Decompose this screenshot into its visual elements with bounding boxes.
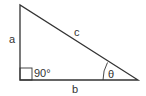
triangle-diagram [0,0,146,96]
right-angle-label: 90° [34,68,51,79]
right-angle-marker [20,68,32,80]
angle-arc [103,63,108,81]
side-a-label: a [9,34,15,45]
theta-label: θ [108,69,114,80]
side-c-label: c [74,27,80,38]
side-b-label: b [72,84,78,95]
